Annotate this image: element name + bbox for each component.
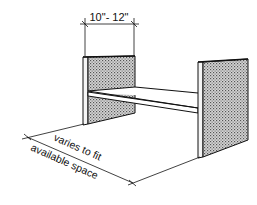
right-side-panel bbox=[198, 59, 248, 158]
shelf-diagram: 10"- 12" varies to fit available space bbox=[0, 0, 257, 205]
shelf-drawing: 10"- 12" varies to fit available space bbox=[0, 0, 257, 205]
depth-label: 10"- 12" bbox=[90, 11, 129, 23]
depth-dimension bbox=[80, 18, 139, 56]
